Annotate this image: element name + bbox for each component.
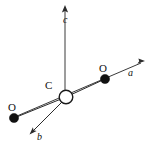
atom-carbon-center [59, 90, 73, 104]
atom-label-oxygen-right: O [99, 63, 107, 74]
bond-c-o-left [14, 97, 66, 118]
axis-label-b: b [37, 132, 42, 142]
atom-oxygen-right [100, 74, 109, 83]
atom-label-oxygen-left: O [8, 102, 16, 113]
atom-oxygen-left [9, 113, 18, 122]
atom-label-carbon: C [45, 80, 52, 91]
molecular-axes-figure: C O O a b c [0, 0, 154, 148]
axis-label-a: a [128, 68, 133, 78]
axis-line-a [10, 63, 141, 119]
axis-label-c: c [63, 15, 67, 25]
axis-arrowhead-a [137, 58, 145, 63]
